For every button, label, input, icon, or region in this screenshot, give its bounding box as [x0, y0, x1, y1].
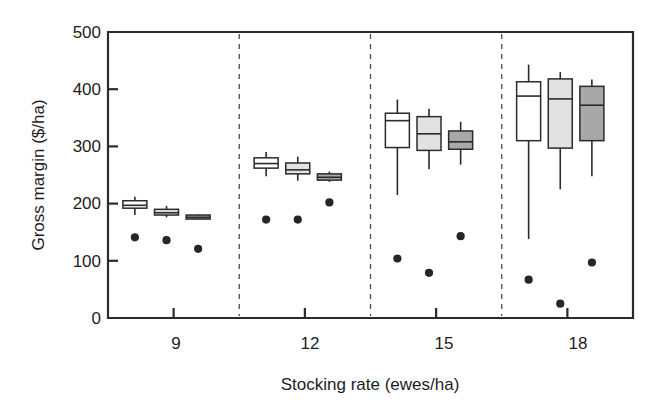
box-rect: [580, 86, 604, 140]
x-tick-label-12: 12: [301, 334, 320, 353]
x-tick-label-9: 9: [171, 334, 180, 353]
y-tick-label-200: 200: [73, 194, 101, 213]
box-rect: [449, 131, 473, 149]
axis-ticks: [108, 89, 567, 318]
y-axis-title: Gross margin ($/ha): [29, 99, 48, 250]
box-9-s2: [155, 206, 179, 217]
x-axis-title: Stocking rate (ewes/ha): [281, 375, 460, 394]
box-9-s1: [123, 197, 147, 215]
box-15-s3: [449, 122, 473, 165]
box-18-s1: [517, 65, 541, 239]
data-point-9-s1: [131, 233, 139, 241]
boxplot-data: [123, 65, 604, 308]
box-9-s3: [186, 214, 210, 219]
box-18-s3: [580, 79, 604, 176]
y-tick-label-0: 0: [92, 309, 101, 328]
y-tick-label-100: 100: [73, 252, 101, 271]
y-tick-label-400: 400: [73, 80, 101, 99]
data-point-12-s1: [262, 216, 270, 224]
group-separators: [239, 34, 502, 316]
chart-root: Gross margin ($/ha) Stocking rate (ewes/…: [0, 0, 657, 407]
box-15-s2: [417, 109, 441, 170]
x-tick-label-18: 18: [569, 334, 588, 353]
data-point-9-s3: [194, 245, 202, 253]
data-point-15-s2: [425, 269, 433, 277]
box-rect: [548, 79, 572, 148]
data-point-15-s1: [393, 254, 401, 262]
data-point-18-s3: [588, 258, 596, 266]
data-point-12-s3: [325, 198, 333, 206]
box-rect: [123, 201, 147, 208]
x-tick-label-15: 15: [435, 334, 454, 353]
data-point-9-s2: [162, 236, 170, 244]
box-15-s1: [385, 99, 409, 195]
box-18-s2: [548, 72, 572, 189]
data-point-15-s3: [457, 232, 465, 240]
y-tick-label-300: 300: [73, 137, 101, 156]
box-12-s3: [317, 172, 341, 182]
data-point-18-s1: [525, 276, 533, 284]
boxplot-chart: Gross margin ($/ha) Stocking rate (ewes/…: [0, 0, 657, 407]
box-rect: [286, 163, 310, 174]
box-12-s2: [286, 157, 310, 181]
box-rect: [517, 82, 541, 141]
y-tick-label-500: 500: [73, 23, 101, 42]
box-12-s1: [254, 152, 278, 176]
box-rect: [385, 113, 409, 147]
data-point-18-s2: [556, 300, 564, 308]
data-point-12-s2: [294, 216, 302, 224]
